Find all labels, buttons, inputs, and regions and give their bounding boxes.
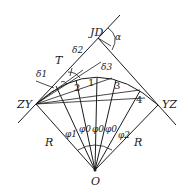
label-phi0-c: φ0 bbox=[105, 124, 117, 134]
label-delta3: δ3 bbox=[101, 62, 112, 72]
tangent-line-right bbox=[98, 38, 176, 125]
label-point-3: 3 bbox=[114, 80, 120, 91]
label-point-4: 4 bbox=[136, 94, 142, 105]
label-phi2: φ2 bbox=[118, 130, 130, 140]
label-r-right: R bbox=[133, 136, 142, 149]
label-o: O bbox=[91, 175, 100, 188]
center-point bbox=[94, 169, 97, 172]
label-jd: JD bbox=[88, 26, 103, 39]
label-r-left: R bbox=[44, 136, 53, 149]
delta1-leader bbox=[36, 81, 54, 88]
chord-5 bbox=[36, 98, 145, 104]
label-point-1: 1 bbox=[88, 77, 94, 88]
label-alpha: α bbox=[115, 32, 121, 42]
label-delta2: δ2 bbox=[72, 45, 83, 55]
label-phi0-a: φ0 bbox=[79, 124, 91, 134]
label-zy: ZY bbox=[16, 98, 34, 111]
label-phi1: φ1 bbox=[65, 129, 77, 139]
label-phi0-b: φ0 bbox=[92, 124, 104, 134]
label-t: T bbox=[55, 54, 64, 67]
label-point-2: 2 bbox=[74, 82, 80, 93]
label-yz: YZ bbox=[162, 98, 177, 111]
curve-setting-out-diagram: JD α T δ2 δ1 δ3 ZY YZ R R O φ1 φ0 φ0 φ0 … bbox=[0, 0, 188, 195]
label-delta1: δ1 bbox=[36, 69, 47, 79]
